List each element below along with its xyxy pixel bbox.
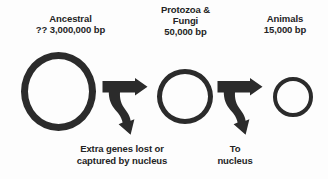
transition-caption-two: To nucleus xyxy=(196,143,274,166)
genome-circle-protozoa-fungi xyxy=(157,69,213,124)
transition-caption-two-line1: To xyxy=(196,143,274,155)
stage-name-protozoa-line1: Protozoa & xyxy=(133,4,238,15)
transition-caption-one-line1: Extra genes lost or xyxy=(52,143,192,155)
stage-label-ancestral: Ancestral ?? 3,000,000 bp xyxy=(8,13,133,35)
genome-circle-animals xyxy=(273,77,313,117)
stage-size-animals: 15,000 bp xyxy=(245,24,325,35)
transition-caption-one: Extra genes lost or captured by nucleus xyxy=(52,143,192,166)
fork-arrow-icon-one xyxy=(102,78,154,140)
stage-size-ancestral: ?? 3,000,000 bp xyxy=(8,24,133,35)
stage-label-animals: Animals 15,000 bp xyxy=(245,13,325,35)
genome-reduction-diagram: Ancestral ?? 3,000,000 bp Protozoa & Fun… xyxy=(0,0,328,179)
stage-label-protozoa-fungi: Protozoa & Fungi 50,000 bp xyxy=(133,4,238,38)
transition-caption-two-line2: nucleus xyxy=(196,155,274,167)
genome-circle-ancestral xyxy=(21,52,96,131)
fork-arrow-icon-two xyxy=(217,78,269,140)
stage-name-ancestral: Ancestral xyxy=(8,13,133,24)
stage-size-protozoa-fungi: 50,000 bp xyxy=(133,26,238,37)
transition-caption-one-line2: captured by nucleus xyxy=(52,155,192,167)
stage-name-protozoa-line2: Fungi xyxy=(133,15,238,26)
stage-name-animals: Animals xyxy=(245,13,325,24)
